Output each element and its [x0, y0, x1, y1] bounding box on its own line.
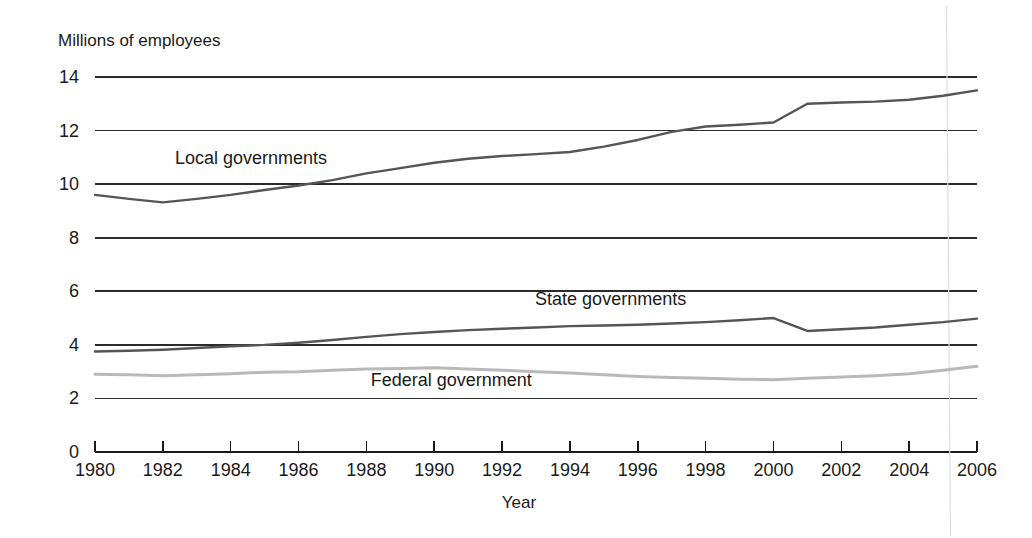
x-tick-label-1982: 1982 [143, 460, 183, 480]
series-line-state-governments [95, 318, 977, 351]
x-tick-label-2006: 2006 [957, 460, 997, 480]
x-tick-label-2000: 2000 [753, 460, 793, 480]
y-tick-label-14: 14 [59, 67, 79, 87]
x-axis-title: Year [502, 493, 537, 512]
series-label-state-governments: State governments [535, 289, 686, 309]
x-tick-label-1992: 1992 [482, 460, 522, 480]
y-tick-label-0: 0 [69, 442, 79, 462]
x-tick-label-2004: 2004 [889, 460, 929, 480]
scan-artifact-line [946, 6, 950, 536]
x-tick-label-1990: 1990 [414, 460, 454, 480]
y-tick-label-4: 4 [69, 335, 79, 355]
y-tick-label-10: 10 [59, 174, 79, 194]
x-tick-label-1988: 1988 [346, 460, 386, 480]
y-tick-label-8: 8 [69, 228, 79, 248]
x-tick-marks-group [95, 441, 977, 452]
y-tick-label-12: 12 [59, 121, 79, 141]
data-series-group [95, 90, 977, 379]
x-tick-label-1986: 1986 [279, 460, 319, 480]
y-tick-label-6: 6 [69, 281, 79, 301]
x-tick-label-2002: 2002 [821, 460, 861, 480]
series-line-local-governments [95, 90, 977, 202]
series-label-federal-government: Federal government [371, 370, 532, 390]
x-tick-label-1980: 1980 [75, 460, 115, 480]
y-axis-tick-labels-group: 02468101214 [59, 67, 79, 462]
x-tick-label-1994: 1994 [550, 460, 590, 480]
x-tick-label-1984: 1984 [211, 460, 251, 480]
gridlines-group [95, 77, 977, 452]
y-tick-label-2: 2 [69, 388, 79, 408]
y-axis-title: Millions of employees [58, 31, 221, 50]
series-line-federal-government [95, 366, 977, 379]
x-tick-label-1996: 1996 [618, 460, 658, 480]
x-axis-tick-labels-group: 1980198219841986198819901992199419961998… [75, 460, 997, 480]
employment-line-chart: 02468101214 1980198219841986198819901992… [0, 0, 1032, 538]
chart-page: 02468101214 1980198219841986198819901992… [0, 0, 1032, 538]
x-tick-label-1998: 1998 [686, 460, 726, 480]
series-label-local-governments: Local governments [175, 148, 327, 168]
